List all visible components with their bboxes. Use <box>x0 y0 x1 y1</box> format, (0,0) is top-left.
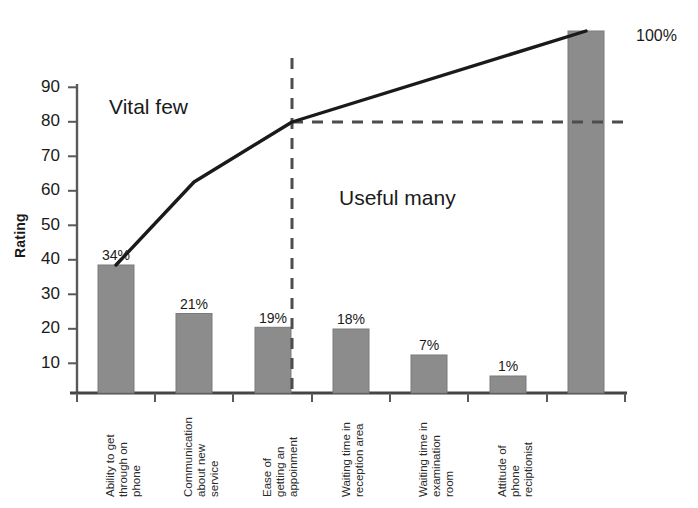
pareto-chart-page: 90 80 70 60 50 40 30 20 10 Rating 34% 21… <box>0 0 698 508</box>
x-category-label-5-line-2: examination <box>430 401 443 497</box>
bar-label-3: 19% <box>243 310 303 326</box>
bar-label-6: 1% <box>478 358 538 374</box>
bar-label-1: 34% <box>86 247 146 263</box>
x-category-label-2-line-1: Communication <box>182 401 195 497</box>
x-category-label-5-line-1: Waiting time in <box>417 401 430 497</box>
x-category-label-3-line-3: appoinment <box>287 401 300 497</box>
x-category-label-3-line-2: getting an <box>274 401 287 497</box>
x-category-label-3-line-1: Ease of <box>261 401 274 497</box>
annotation-vital-few: Vital few <box>109 95 188 119</box>
x-category-label-1-line-2: through on <box>117 401 130 497</box>
x-category-label-2-line-2: about new <box>195 401 208 497</box>
bar-attitude-of-phone-receptionist[interactable] <box>490 376 526 393</box>
x-category-label-6-line-1: Attitude of <box>496 401 509 497</box>
bar-waiting-time-in-reception-area[interactable] <box>333 329 369 393</box>
y-tick-label-20: 20 <box>14 318 60 338</box>
y-tick-label-10: 10 <box>14 353 60 373</box>
bar-label-4: 18% <box>321 311 381 327</box>
bar-label-2: 21% <box>164 296 224 312</box>
y-tick-label-60: 60 <box>14 180 60 200</box>
y-axis-title: Rating <box>12 213 28 258</box>
x-category-label-4-line-1: Waiting time in <box>340 401 353 497</box>
x-category-label-6-line-2: phone <box>509 401 522 497</box>
x-category-label-1-line-1: Ability to get <box>104 401 117 497</box>
x-category-label-5-line-3: room <box>443 401 456 497</box>
bar-ease-of-getting-an-appointment[interactable] <box>255 327 291 393</box>
y-tick-label-80: 80 <box>14 111 60 131</box>
annotation-useful-many: Useful many <box>339 186 456 210</box>
y-tick-label-90: 90 <box>14 77 60 97</box>
annotation-cumulative-100-percent: 100% <box>636 27 677 45</box>
x-category-label-4-line-2: reception area <box>353 401 366 497</box>
x-category-label-1-line-3: phone <box>130 401 143 497</box>
bar-ability-to-get-through-on-phone[interactable] <box>98 265 134 393</box>
bar-waiting-time-in-examination-room[interactable] <box>411 355 447 393</box>
bar-communication-about-new-service[interactable] <box>176 314 212 394</box>
y-tick-label-30: 30 <box>14 284 60 304</box>
y-tick-label-70: 70 <box>14 146 60 166</box>
x-category-label-2-line-3: service <box>208 401 221 497</box>
x-category-label-6-line-3: reciptionist <box>522 401 535 497</box>
bar-label-5: 7% <box>399 337 459 353</box>
bar-cumulative-total[interactable] <box>568 31 604 393</box>
